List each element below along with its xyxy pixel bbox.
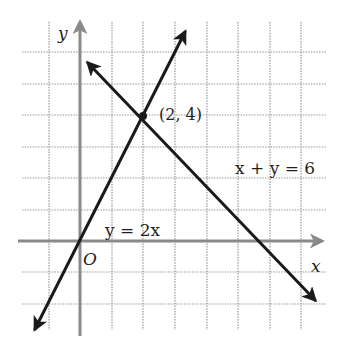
x-axis-label: x	[311, 256, 321, 276]
intersection-point	[139, 112, 147, 120]
origin-label: O	[83, 249, 97, 269]
line-label-x-plus-y-6: x + y = 6	[235, 158, 315, 178]
intersection-label: (2, 4)	[159, 105, 202, 124]
line-y-equals-2x	[35, 32, 185, 329]
coordinate-graph: y x O (2, 4) x + y = 6 y = 2x	[0, 0, 348, 358]
axes	[18, 22, 322, 336]
line-label-y-2x: y = 2x	[104, 220, 160, 240]
line-x-plus-y-equals-6	[88, 63, 315, 300]
y-axis-label: y	[57, 23, 68, 43]
